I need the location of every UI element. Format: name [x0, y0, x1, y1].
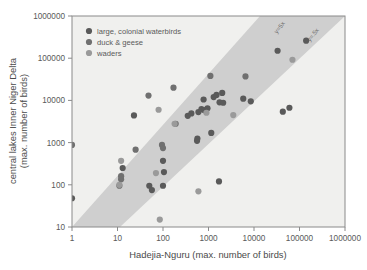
data-point: [216, 178, 222, 184]
scatter-plot: y=5x y=.5x 1101001000100001000001000000 …: [0, 0, 367, 270]
y-axis-title-line2: (max. number of birds): [18, 74, 29, 168]
data-point: [155, 107, 161, 113]
data-point: [120, 165, 126, 171]
data-point: [160, 183, 166, 189]
data-point: [188, 110, 194, 116]
data-point: [230, 112, 236, 118]
data-point: [145, 92, 151, 98]
data-point: [207, 73, 213, 79]
data-point: [248, 98, 254, 104]
x-tick-label: 1000000: [329, 234, 361, 243]
data-point: [161, 169, 167, 175]
y-axis-title-line1: central lakes Inner Niger Delta: [7, 57, 18, 184]
data-point: [200, 96, 206, 102]
data-point: [195, 188, 201, 194]
data-point: [220, 100, 226, 106]
data-point: [219, 90, 225, 96]
data-point: [133, 147, 139, 153]
x-tick-label: 10000: [243, 234, 266, 243]
data-point: [170, 85, 176, 91]
data-point: [157, 216, 163, 222]
x-tick-label: 100000: [286, 234, 314, 243]
x-tick-label: 1: [70, 234, 75, 243]
y-tick-label: 1000: [47, 139, 66, 148]
data-point: [160, 158, 166, 164]
legend-marker-large-colonial-waterbirds: [86, 28, 92, 34]
legend-marker-waders: [86, 50, 92, 56]
data-point: [240, 96, 246, 102]
x-axis-title: Hadejia-Nguru (max. number of birds): [129, 249, 286, 260]
y-tick-label: 100: [51, 181, 65, 190]
legend-label-waders: waders: [96, 49, 122, 58]
data-point: [280, 109, 286, 115]
data-point: [303, 38, 309, 44]
data-point: [153, 170, 159, 176]
x-tick-label: 1000: [199, 234, 218, 243]
data-point: [131, 112, 137, 118]
data-point: [203, 110, 209, 116]
data-point: [118, 173, 124, 179]
data-point: [172, 121, 178, 127]
legend-label-duck-and-geese: duck & geese: [97, 38, 143, 47]
data-point: [242, 73, 248, 79]
data-point: [149, 187, 155, 193]
y-tick-label: 10: [56, 223, 66, 232]
legend-marker-duck-and-geese: [86, 39, 92, 45]
data-point: [208, 130, 214, 136]
legend-label-large-colonial-waterbirds: large, colonial waterbirds: [97, 27, 181, 36]
data-point: [116, 182, 122, 188]
data-point: [194, 135, 200, 141]
y-tick-label: 1000000: [33, 12, 65, 21]
data-point: [289, 57, 295, 63]
data-point: [118, 158, 124, 164]
data-point: [274, 48, 280, 54]
x-tick-label: 100: [156, 234, 170, 243]
x-tick-label: 10: [113, 234, 123, 243]
y-tick-label: 10000: [42, 96, 65, 105]
y-tick-label: 100000: [38, 54, 66, 63]
data-point: [286, 105, 292, 111]
data-point: [213, 92, 219, 98]
chart-figure: y=5x y=.5x 1101001000100001000001000000 …: [0, 0, 367, 270]
data-point: [160, 145, 166, 151]
